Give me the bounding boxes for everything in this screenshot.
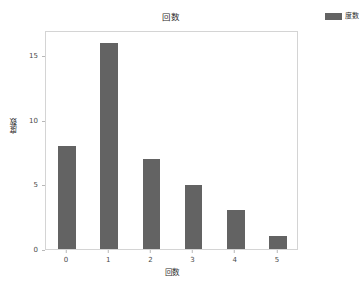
- x-tick: 0: [64, 250, 68, 265]
- y-tick: 15: [29, 52, 45, 62]
- legend-entry-label: 度数: [345, 12, 359, 21]
- legend-swatch-icon: [325, 13, 342, 20]
- plot-area: [45, 31, 298, 250]
- x-tick: 1: [106, 250, 110, 265]
- x-tick-mark: [108, 250, 109, 253]
- bar: [58, 146, 76, 249]
- x-tick-mark: [150, 250, 151, 253]
- chart-title: 回数: [45, 12, 298, 23]
- x-tick-mark: [234, 250, 235, 253]
- x-tick-label: 0: [64, 256, 68, 265]
- bar: [185, 185, 203, 249]
- x-tick-label: 5: [275, 256, 279, 265]
- y-tick-label: 10: [29, 117, 42, 126]
- x-tick-label: 1: [106, 256, 110, 265]
- x-tick-label: 4: [233, 256, 237, 265]
- x-axis-ticks: 012345: [45, 250, 298, 268]
- y-tick: 5: [34, 181, 45, 191]
- y-tick: 0: [34, 245, 45, 255]
- x-tick-label: 2: [148, 256, 152, 265]
- x-tick: 4: [233, 250, 237, 265]
- bar: [100, 43, 118, 249]
- y-tick-label: 0: [34, 246, 42, 255]
- chart-legend: 度数: [325, 11, 359, 22]
- bar: [227, 210, 245, 249]
- x-tick-label: 3: [190, 256, 194, 265]
- y-axis-ticks: 051015: [0, 31, 45, 250]
- y-tick-label: 5: [34, 181, 42, 190]
- bar-chart-figure: 回数 度数 度数 051015 012345 回数: [0, 0, 361, 291]
- x-tick: 2: [148, 250, 152, 265]
- x-tick-mark: [192, 250, 193, 253]
- x-tick-mark: [66, 250, 67, 253]
- x-tick: 3: [190, 250, 194, 265]
- x-tick: 5: [275, 250, 279, 265]
- bar: [143, 159, 161, 249]
- y-tick-label: 15: [29, 52, 42, 61]
- bar: [269, 236, 287, 249]
- y-tick: 10: [29, 116, 45, 126]
- x-axis-label: 回数: [45, 268, 298, 278]
- bars-group: [46, 32, 297, 249]
- x-tick-mark: [276, 250, 277, 253]
